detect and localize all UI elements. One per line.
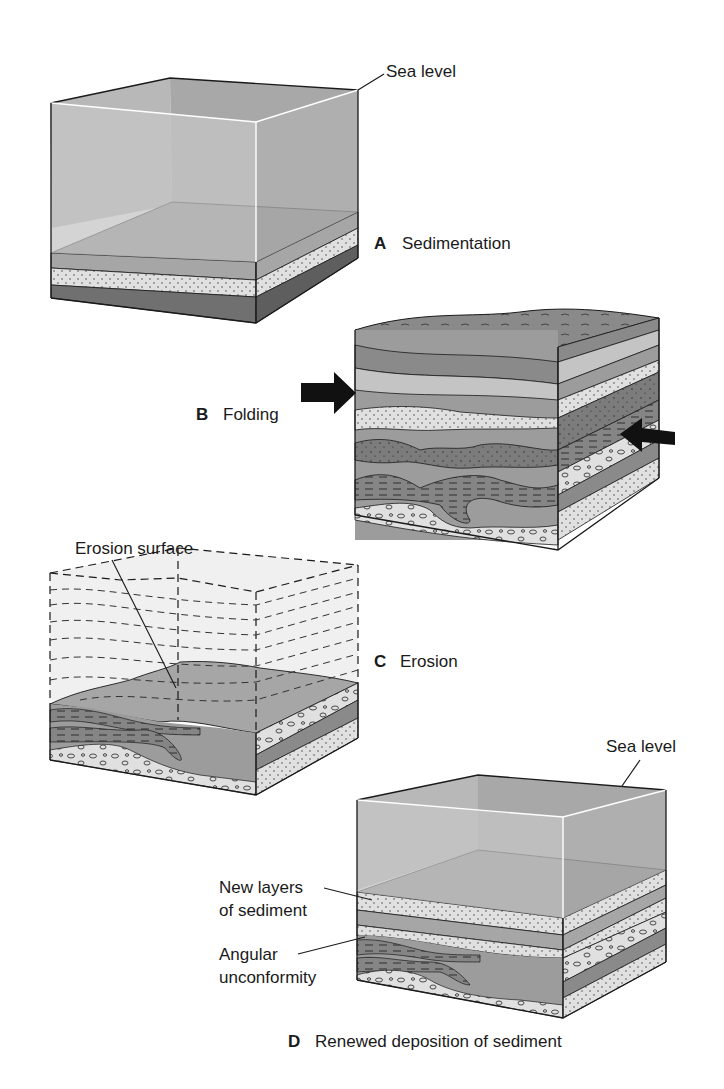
sea-level-leader bbox=[358, 74, 384, 90]
sea-level-leader-d bbox=[622, 760, 640, 786]
panel-d-renewed-deposition bbox=[298, 760, 666, 1018]
erosion-surface-label: Erosion surface bbox=[75, 539, 193, 558]
panel-c-caption: Erosion bbox=[400, 652, 458, 671]
unconformity-leader bbox=[298, 937, 365, 954]
panel-c-erosion bbox=[50, 548, 358, 795]
new-layers-label-line2: of sediment bbox=[219, 901, 307, 920]
new-layers-label-line1: New layers bbox=[219, 878, 303, 897]
unconformity-label-line1: Angular bbox=[219, 945, 278, 964]
panel-a-letter: A bbox=[374, 234, 386, 253]
compression-arrow-left bbox=[301, 372, 356, 414]
diagram-canvas: Sea level A Sedimentation B Folding bbox=[0, 0, 724, 1089]
sea-level-label-d: Sea level bbox=[606, 737, 676, 756]
unconformity-label-line2: unconformity bbox=[219, 968, 317, 987]
panel-a-caption: Sedimentation bbox=[402, 234, 511, 253]
panel-a-sedimentation bbox=[50, 74, 384, 323]
panel-b-caption: Folding bbox=[223, 405, 279, 424]
panel-b-folding bbox=[301, 309, 675, 550]
panel-d-caption: Renewed deposition of sediment bbox=[315, 1032, 562, 1051]
panel-c-letter: C bbox=[374, 652, 386, 671]
sea-level-label-a: Sea level bbox=[386, 62, 456, 81]
panel-d-letter: D bbox=[288, 1032, 300, 1051]
panel-b-letter: B bbox=[196, 405, 208, 424]
